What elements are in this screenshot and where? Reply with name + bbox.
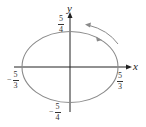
x-axis-label: x	[133, 60, 138, 72]
y-axis-label: y	[67, 2, 72, 14]
y-neg-sign: −	[49, 108, 54, 116]
x-pos-den: 3	[118, 83, 122, 91]
y-pos-tick-label: 5 4	[58, 14, 64, 34]
y-pos-den: 4	[59, 26, 63, 34]
ellipse-diagram	[0, 0, 146, 127]
x-pos-num: 5	[118, 72, 122, 80]
y-neg-tick-label: − 5 4	[49, 103, 61, 122]
direction-arrowhead-icon	[85, 23, 91, 28]
y-neg-den: 4	[56, 114, 60, 122]
y-neg-num: 5	[56, 103, 60, 111]
x-neg-num: 5	[14, 71, 18, 79]
x-neg-tick-label: − 5 3	[7, 71, 19, 90]
x-neg-sign: −	[7, 76, 12, 84]
x-neg-den: 3	[14, 82, 18, 90]
curve-arrowhead-icon	[96, 37, 102, 42]
x-axis-arrowhead-icon	[126, 65, 132, 70]
y-pos-num: 5	[59, 15, 63, 23]
x-pos-tick-label: 5 3	[117, 71, 123, 91]
